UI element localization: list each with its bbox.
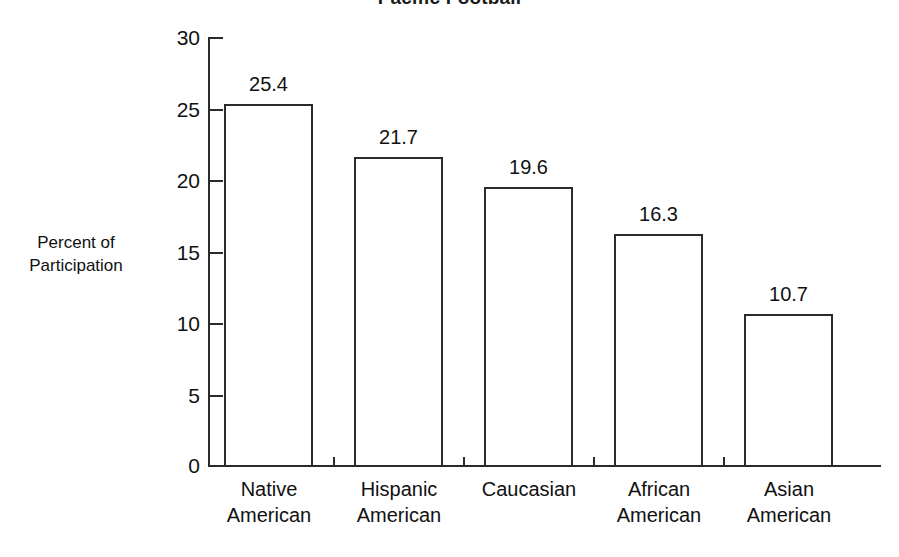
x-axis-tick-edge-5 [484, 452, 486, 466]
x-axis-label-native-american: Native American [214, 476, 324, 528]
y-axis-label-5: 5 [156, 385, 200, 406]
bar-value-african-american: 16.3 [614, 204, 703, 224]
y-axis-label-25: 25 [156, 99, 200, 120]
bar-value-caucasian: 19.6 [484, 157, 573, 177]
y-axis-label-5-wrap: 5 [150, 385, 200, 406]
y-axis-label-10-wrap: 10 [150, 313, 200, 334]
y-axis-tick-30 [210, 37, 223, 39]
x-axis-tick-edge-2 [311, 452, 313, 466]
bar-caucasian[interactable] [484, 187, 573, 467]
y-axis-label-0: 0 [156, 455, 200, 476]
bar-native-american[interactable] [224, 104, 313, 467]
x-axis-tick-gap-2 [463, 457, 465, 466]
bar-asian-american[interactable] [744, 314, 833, 467]
x-axis-label-african-american: African American [604, 476, 714, 528]
bar-hispanic-american[interactable] [354, 157, 443, 467]
bar-chart: Pacific Football Percent of Participatio… [0, 0, 899, 557]
x-axis-label-native-american-line-2: American [214, 502, 324, 528]
x-axis-tick-edge-1 [224, 452, 226, 466]
x-axis-label-caucasian: Caucasian [474, 476, 584, 502]
x-axis-tick-edge-9 [744, 452, 746, 466]
y-axis-tick-10 [210, 323, 223, 325]
y-axis-label-30: 30 [156, 27, 200, 48]
x-axis-tick-edge-4 [441, 452, 443, 466]
x-axis-label-asian-american-line-2: American [734, 502, 844, 528]
x-axis-tick-edge-7 [614, 452, 616, 466]
x-axis-tick-edge-8 [701, 452, 703, 466]
x-axis-label-hispanic-american-line-2: American [344, 502, 454, 528]
y-axis-title-line-1: Percent of [37, 233, 115, 252]
x-axis-tick-gap-4 [723, 457, 725, 466]
x-axis-label-native-american-line-1: Native [214, 476, 324, 502]
y-axis-tick-15 [210, 252, 223, 254]
bar-value-hispanic-american: 21.7 [354, 127, 443, 147]
y-axis-tick-5 [210, 395, 223, 397]
y-axis-label-10: 10 [156, 313, 200, 334]
y-axis-title-line-2: Participation [29, 256, 123, 275]
x-axis-tick-edge-10 [831, 452, 833, 466]
x-axis-tick-gap-3 [593, 457, 595, 466]
x-axis-label-african-american-line-1: African [604, 476, 714, 502]
y-axis-label-15-wrap: 15 [150, 242, 200, 263]
y-axis-label-20: 20 [156, 170, 200, 191]
bar-value-native-american: 25.4 [224, 74, 313, 94]
chart-title: Pacific Football [0, 0, 899, 9]
x-axis-tick-gap-1 [333, 457, 335, 466]
x-axis-label-hispanic-american-line-1: Hispanic [344, 476, 454, 502]
y-axis-label-15: 15 [156, 242, 200, 263]
y-axis-label-0-wrap: 0 [150, 455, 200, 476]
x-axis-label-asian-american-line-1: Asian [734, 476, 844, 502]
y-axis-label-20-wrap: 20 [150, 170, 200, 191]
x-axis-label-african-american-line-2: American [604, 502, 714, 528]
bar-value-asian-american: 10.7 [744, 284, 833, 304]
x-axis-label-hispanic-american: Hispanic American [344, 476, 454, 528]
y-axis-tick-25 [210, 109, 223, 111]
x-axis-label-caucasian-line-1: Caucasian [474, 476, 584, 502]
y-axis-label-25-wrap: 25 [150, 99, 200, 120]
y-axis-title: Percent of Participation [6, 231, 146, 277]
y-axis-label-30-wrap: 30 [150, 27, 200, 48]
x-axis-label-asian-american: Asian American [734, 476, 844, 528]
y-axis-tick-0 [210, 465, 223, 467]
bar-african-american[interactable] [614, 234, 703, 467]
y-axis-tick-20 [210, 180, 223, 182]
x-axis-tick-edge-6 [571, 452, 573, 466]
x-axis-tick-edge-3 [354, 452, 356, 466]
